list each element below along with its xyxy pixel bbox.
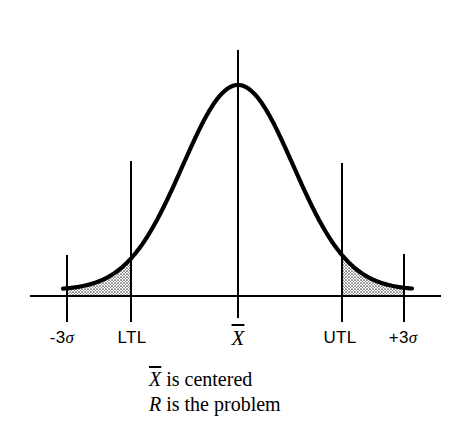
label-ltl: LTL <box>118 328 147 348</box>
caption-line-2: R is the problem <box>149 393 281 416</box>
label-minus-3-sigma: -3σ <box>50 328 74 348</box>
label-utl: UTL <box>323 328 356 348</box>
label-mean-xbar: X <box>232 326 245 351</box>
caption-line-1: X is centered <box>149 368 252 391</box>
normal-distribution-diagram: -3σ LTL X UTL +3σ X is centered R is the… <box>0 0 457 447</box>
upper-tail-shaded-region <box>342 255 404 296</box>
lower-tail-shaded-region <box>67 259 131 297</box>
label-plus-3-sigma: +3σ <box>389 328 418 348</box>
